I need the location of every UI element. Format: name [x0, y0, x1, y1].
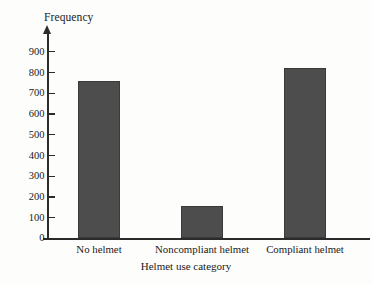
- y-axis-tick: 400: [49, 155, 56, 156]
- y-axis-tick-label: 0: [39, 232, 44, 243]
- x-axis-category-label-compliant-helmet: Compliant helmet: [266, 243, 344, 255]
- y-axis-tick-label: 700: [29, 88, 45, 99]
- y-axis-tick-label: 100: [29, 212, 45, 223]
- x-axis-category-label-no-helmet: No helmet: [76, 243, 121, 255]
- y-axis-tick: 800: [49, 72, 56, 73]
- y-axis-tick: 700: [49, 93, 56, 94]
- y-axis-tick-label: 600: [29, 109, 45, 120]
- y-axis-tick-label: 500: [29, 129, 45, 140]
- bar-compliant-helmet: [284, 68, 326, 238]
- x-axis-label: Helmet use category: [141, 260, 231, 272]
- x-axis-category-label-noncompliant-helmet: Noncompliant helmet: [155, 243, 249, 255]
- y-axis-tick: 300: [49, 176, 56, 177]
- y-axis-tick: 500: [49, 134, 56, 135]
- y-axis-tick: 200: [49, 196, 56, 197]
- bar-noncompliant-helmet: [181, 206, 223, 238]
- y-axis-tick-label: 900: [29, 46, 45, 57]
- bar-no-helmet: [78, 81, 120, 238]
- y-axis-tick: 100: [49, 217, 56, 218]
- y-axis-tick-label: 800: [29, 67, 45, 78]
- y-axis-line: [47, 33, 49, 239]
- y-axis-label: Frequency: [44, 11, 93, 23]
- y-axis-tick: 900: [49, 51, 56, 52]
- y-axis-tick: 600: [49, 113, 56, 114]
- y-axis-tick-label: 300: [29, 171, 45, 182]
- y-axis-tick-label: 200: [29, 192, 45, 203]
- y-axis-tick-label: 400: [29, 150, 45, 161]
- x-axis-line: [43, 238, 370, 240]
- bar-chart-figure: Frequency 900 800 700 600 500 400 300 20…: [0, 0, 372, 285]
